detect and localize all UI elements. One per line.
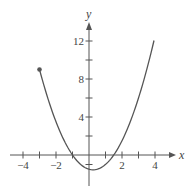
y-tick-label: 4 (79, 111, 85, 123)
x-axis-arrow-icon (169, 152, 176, 158)
x-tick-label: −2 (50, 159, 62, 171)
closed-endpoint-dot (37, 67, 42, 72)
y-axis-arrow-icon (86, 22, 92, 30)
axes (10, 22, 176, 186)
y-tick-label: 8 (79, 73, 85, 85)
parabola-curve (40, 40, 155, 169)
y-axis-label: y (85, 7, 92, 21)
x-tick-label: −4 (17, 159, 29, 171)
x-tick-label: 2 (119, 159, 125, 171)
y-tick-label: 12 (73, 35, 84, 47)
parabola-chart: −4−2244812 x y (0, 0, 196, 186)
x-axis-label: x (178, 148, 185, 162)
x-tick-label: 4 (152, 159, 158, 171)
